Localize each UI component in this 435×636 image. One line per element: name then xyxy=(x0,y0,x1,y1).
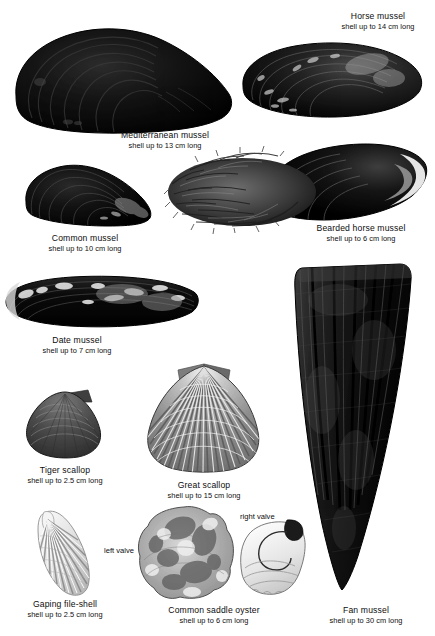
specimen-name: Bearded horse mussel xyxy=(288,224,434,234)
specimen-great-scallop xyxy=(144,360,264,478)
caption-gaping-file-shell: Gaping file-shell shell up to 2.5 cm lon… xyxy=(6,600,124,619)
common-mussel-illustration xyxy=(20,160,156,242)
specimen-saddle-oyster-left-valve xyxy=(134,504,238,602)
horse-mussel-illustration xyxy=(239,38,427,124)
caption-bearded-horse-mussel: Bearded horse mussel shell up to 6 cm lo… xyxy=(288,224,434,243)
bearded-horse-mussel-illustration xyxy=(168,140,430,232)
great-scallop-illustration xyxy=(144,360,264,478)
specimen-name: Date mussel xyxy=(12,336,142,346)
specimen-name: Great scallop xyxy=(144,481,264,491)
specimen-size: shell up to 10 cm long xyxy=(20,245,150,253)
specimen-horse-mussel xyxy=(239,38,427,124)
specimen-mediterranean-mussel xyxy=(8,22,236,140)
specimen-bearded-horse-mussel xyxy=(168,140,430,232)
caption-common-mussel: Common mussel shell up to 10 cm long xyxy=(20,234,150,253)
specimen-fan-mussel xyxy=(278,260,426,600)
specimen-size: shell up to 30 cm long xyxy=(306,617,426,625)
specimen-name: Common mussel xyxy=(20,234,150,244)
caption-date-mussel: Date mussel shell up to 7 cm long xyxy=(12,336,142,355)
specimen-name: Common saddle oyster xyxy=(144,606,284,616)
specimen-size: shell up to 2.5 cm long xyxy=(6,611,124,619)
label-left-valve: left valve xyxy=(104,546,134,555)
shell-plate: Mediterranean mussel shell up to 13 cm l… xyxy=(0,0,435,636)
date-mussel-illustration xyxy=(2,272,202,334)
gaping-file-shell-illustration xyxy=(26,506,112,600)
specimen-tiger-scallop xyxy=(22,386,108,462)
tiger-scallop-illustration xyxy=(22,386,108,462)
specimen-size: shell up to 6 cm long xyxy=(144,617,284,625)
specimen-name: Tiger scallop xyxy=(8,466,122,476)
label-right-valve: right valve xyxy=(240,512,275,521)
fan-mussel-illustration xyxy=(278,260,426,600)
caption-tiger-scallop: Tiger scallop shell up to 2.5 cm long xyxy=(8,466,122,485)
caption-great-scallop: Great scallop shell up to 15 cm long xyxy=(144,481,264,500)
specimen-name: Fan mussel xyxy=(306,606,426,616)
specimen-size: shell up to 15 cm long xyxy=(144,492,264,500)
specimen-size: shell up to 2.5 cm long xyxy=(8,477,122,485)
caption-horse-mussel: Horse mussel shell up to 14 cm long xyxy=(323,12,433,31)
mediterranean-mussel-illustration xyxy=(8,22,236,140)
saddle-oyster-left-valve-illustration xyxy=(134,504,238,602)
specimen-size: shell up to 14 cm long xyxy=(323,23,433,31)
specimen-size: shell up to 6 cm long xyxy=(288,235,434,243)
caption-fan-mussel: Fan mussel shell up to 30 cm long xyxy=(306,606,426,625)
specimen-gaping-file-shell xyxy=(26,506,112,600)
specimen-name: Gaping file-shell xyxy=(6,600,124,610)
caption-common-saddle-oyster: Common saddle oyster shell up to 6 cm lo… xyxy=(144,606,284,625)
specimen-date-mussel xyxy=(2,272,202,334)
specimen-name: Horse mussel xyxy=(323,12,433,22)
specimen-size: shell up to 7 cm long xyxy=(12,347,142,355)
specimen-common-mussel xyxy=(20,160,156,242)
